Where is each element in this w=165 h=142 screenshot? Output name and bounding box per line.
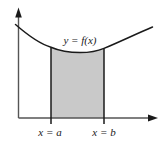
function-label: y = f(x) bbox=[62, 34, 96, 47]
x-axis-arrowhead-icon bbox=[148, 114, 158, 121]
shaded-area-region bbox=[51, 47, 104, 118]
left-bound-label: x = a bbox=[37, 126, 62, 138]
area-under-curve-figure: y = f(x) x = a x = b bbox=[0, 0, 165, 142]
y-axis-arrowhead-icon bbox=[15, 8, 22, 18]
right-bound-label: x = b bbox=[91, 126, 116, 138]
figure-container: y = f(x) x = a x = b bbox=[0, 0, 165, 142]
